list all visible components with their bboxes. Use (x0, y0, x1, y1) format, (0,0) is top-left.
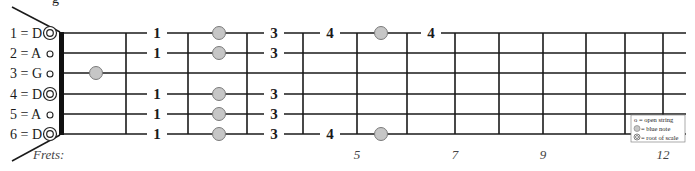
legend-text-open-string: o = open string (634, 116, 674, 123)
frets (126, 33, 663, 134)
string-label-1: 1 = D (10, 26, 42, 41)
legend-text-blue-note: = blue note (641, 125, 670, 132)
blue-note-dot (213, 88, 226, 101)
fretboard-diagram: g 1 = D2 = A3 = G4 = D5 = A6 = D 1344131… (0, 0, 695, 171)
root-marker-icon (44, 27, 57, 40)
title-fragment: g (52, 0, 59, 6)
frets-label: Frets: (32, 147, 64, 162)
blue-note-icon (634, 126, 640, 132)
finger-number: 1 (153, 45, 161, 61)
fret-number-9: 9 (540, 147, 547, 162)
finger-numbers: 1344131313134 (153, 25, 435, 142)
fret-numbers: 57912 (354, 147, 670, 162)
blue-note-dot (90, 67, 103, 80)
blue-note-dot (213, 128, 226, 141)
finger-number: 4 (326, 126, 334, 142)
legend-text-root: = root of scale (641, 134, 679, 141)
blue-note-dot (375, 128, 388, 141)
finger-number: 1 (153, 86, 161, 102)
finger-number: 3 (270, 126, 278, 142)
legend-item-root: = root of scale (634, 134, 679, 141)
fretboard-svg: g 1 = D2 = A3 = G4 = D5 = A6 = D 1344131… (0, 0, 695, 171)
open-string-icon (47, 51, 53, 57)
finger-number: 4 (326, 25, 334, 41)
open-string-icon (47, 71, 53, 77)
string-label-5: 5 = A (10, 107, 42, 122)
string-label-3: 3 = G (10, 66, 42, 81)
blue-note-dot (213, 108, 226, 121)
fret-number-7: 7 (452, 147, 459, 162)
open-string-markers (44, 27, 57, 141)
root-marker-icon (44, 128, 57, 141)
finger-number: 1 (153, 25, 161, 41)
open-string-icon (47, 112, 53, 118)
fret-number-5: 5 (354, 147, 361, 162)
nut (59, 32, 64, 135)
blue-notes (90, 27, 388, 141)
fret-number-12: 12 (657, 147, 671, 162)
blue-note-dot (213, 27, 226, 40)
finger-number: 1 (153, 126, 161, 142)
blue-note-dot (375, 27, 388, 40)
string-label-4: 4 = D (10, 87, 42, 102)
legend: o = open string = blue note = root of sc… (631, 115, 685, 142)
finger-number: 1 (153, 106, 161, 122)
root-marker-icon (44, 88, 57, 101)
finger-number: 3 (270, 25, 278, 41)
finger-number: 3 (270, 45, 278, 61)
finger-number: 4 (427, 25, 435, 41)
finger-number: 3 (270, 86, 278, 102)
finger-number: 3 (270, 106, 278, 122)
string-label-6: 6 = D (10, 127, 42, 142)
string-label-2: 2 = A (10, 46, 42, 61)
blue-note-dot (213, 47, 226, 60)
legend-item-open-string: o = open string (634, 116, 674, 123)
string-labels: 1 = D2 = A3 = G4 = D5 = A6 = D (10, 26, 42, 142)
